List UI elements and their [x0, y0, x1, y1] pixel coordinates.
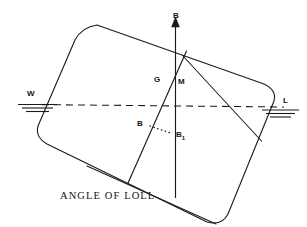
label-waterline-port-w: W — [27, 90, 35, 98]
ship-centerline — [128, 51, 187, 183]
waterline-dashed — [30, 105, 284, 108]
angle-of-loll-figure: B G M B B1 W L ANGLE OF LOLL — [0, 0, 307, 227]
b-to-b1-dotted-line — [150, 126, 172, 134]
label-center-of-buoyancy: B — [137, 120, 143, 128]
label-new-center-of-buoyancy: B1 — [176, 131, 185, 141]
figure-caption: ANGLE OF LOLL — [60, 190, 155, 201]
label-waterline-starboard-l: L — [283, 97, 288, 105]
label-buoyancy-vector: B — [173, 12, 179, 20]
label-center-of-gravity: G — [154, 76, 160, 84]
label-b1-subscript: 1 — [182, 135, 185, 141]
water-hatching-port — [18, 105, 57, 112]
deck-edge-line — [183, 56, 262, 142]
label-metacenter: M — [178, 78, 185, 86]
